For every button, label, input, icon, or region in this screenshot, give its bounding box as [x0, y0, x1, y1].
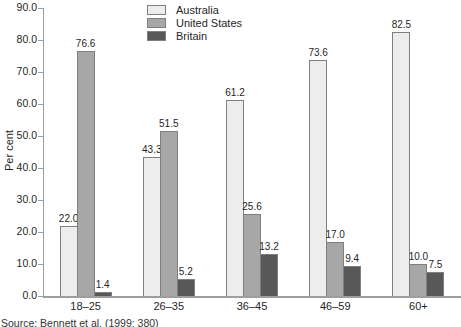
bar-united-states: 76.6	[77, 51, 95, 296]
bar-value-label: 5.2	[179, 266, 193, 277]
x-category-label: 18–25	[44, 300, 127, 312]
legend-item: Britain	[147, 29, 242, 42]
y-tick-label: 10.0	[0, 257, 37, 270]
x-axis-labels: 18–2526–3536–4546–5960+	[44, 300, 460, 312]
bar-value-label: 22.0	[59, 213, 78, 224]
bar-united-states: 10.0	[409, 264, 427, 296]
bar-value-label: 9.4	[345, 253, 359, 264]
bar-united-states: 25.6	[243, 214, 261, 296]
bar-britain: 1.4	[94, 292, 112, 296]
bar-value-label: 1.4	[96, 279, 110, 290]
bar-britain: 5.2	[177, 279, 195, 296]
x-category-label: 46–59	[294, 300, 377, 312]
bar-value-label: 25.6	[242, 201, 261, 212]
legend-swatch	[147, 5, 166, 15]
bar-group: 22.076.61.4	[44, 51, 127, 296]
bar-australia: 43.3	[143, 157, 161, 296]
bar-value-label: 73.6	[308, 47, 327, 58]
bar-value-label: 7.5	[428, 259, 442, 270]
bar-value-label: 43.3	[142, 144, 161, 155]
y-tick-label: 30.0	[0, 193, 37, 206]
bar-value-label: 10.0	[409, 251, 428, 262]
bar-chart-figure: Per cent 0.010.020.030.040.050.060.070.0…	[0, 0, 461, 327]
legend-label: Australia	[176, 4, 219, 16]
x-category-label: 26–35	[127, 300, 210, 312]
bar-australia: 61.2	[226, 100, 244, 296]
bar-group: 82.510.07.5	[377, 32, 460, 296]
y-tick-label: 40.0	[0, 161, 37, 174]
bar-united-states: 51.5	[160, 131, 178, 296]
y-tick-label: 70.0	[0, 65, 37, 78]
legend-swatch	[147, 18, 166, 28]
bar-value-label: 76.6	[76, 38, 95, 49]
bar-value-label: 51.5	[159, 118, 178, 129]
y-tick-label: 60.0	[0, 97, 37, 110]
y-tick-label: 50.0	[0, 129, 37, 142]
y-tick-label: 20.0	[0, 225, 37, 238]
bar-australia: 73.6	[309, 60, 327, 296]
y-tick-label: 0.0	[0, 289, 37, 302]
bar-value-label: 13.2	[259, 241, 278, 252]
legend-item: United States	[147, 16, 242, 29]
y-tick-label: 90.0	[0, 1, 37, 14]
x-category-label: 60+	[377, 300, 460, 312]
legend: AustraliaUnited StatesBritain	[147, 3, 242, 42]
bar-value-label: 82.5	[392, 19, 411, 30]
bar-group: 43.351.55.2	[127, 131, 210, 296]
bar-britain: 7.5	[426, 272, 444, 296]
legend-swatch	[147, 31, 166, 41]
bar-britain: 9.4	[343, 266, 361, 296]
bar-groups: 22.076.61.443.351.55.261.225.613.273.617…	[44, 8, 460, 296]
bar-value-label: 61.2	[225, 87, 244, 98]
legend-item: Australia	[147, 3, 242, 16]
bar-australia: 22.0	[60, 226, 78, 296]
source-caption: Source: Bennett et al. (1999: 380)	[1, 317, 159, 327]
bar-group: 73.617.09.4	[294, 60, 377, 296]
bar-group: 61.225.613.2	[210, 100, 293, 296]
x-category-label: 36–45	[210, 300, 293, 312]
bar-britain: 13.2	[260, 254, 278, 296]
y-tick-label: 80.0	[0, 33, 37, 46]
bar-united-states: 17.0	[326, 242, 344, 296]
legend-label: United States	[176, 17, 242, 29]
legend-label: Britain	[176, 30, 207, 42]
bar-value-label: 17.0	[325, 229, 344, 240]
